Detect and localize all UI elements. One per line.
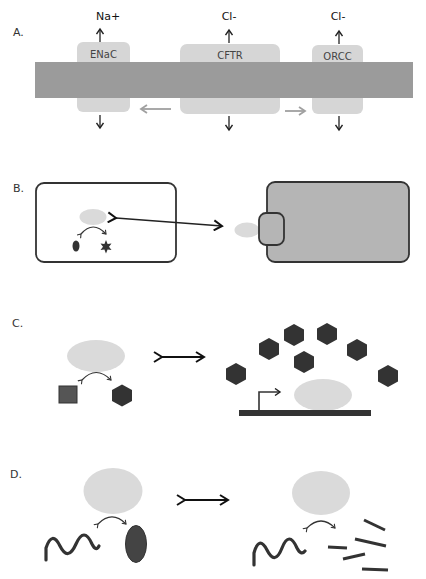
protein-oval-external <box>235 223 260 238</box>
conversion-arrow-icon <box>82 373 111 381</box>
panel-a: A. ENaC CFTR ORCC Na+ Cl- Cl- <box>13 10 413 130</box>
conversion-arrow-icon <box>307 521 335 528</box>
cl-ion-label-orcc: Cl- <box>331 10 346 23</box>
protein-oval <box>80 209 107 225</box>
hexagon-icon <box>284 324 304 346</box>
product-hexagon-icon <box>112 385 132 407</box>
cell-outline-right <box>267 182 409 262</box>
substrate-squiggle-icon <box>254 539 305 565</box>
panel-c-label: C. <box>12 317 23 330</box>
fragment-icon <box>343 554 365 559</box>
panel-b-label: B. <box>13 182 24 195</box>
cftr-label: CFTR <box>217 50 243 61</box>
hexagon-icon <box>259 338 279 360</box>
fragment-icon <box>328 547 347 548</box>
bound-protein-oval <box>294 379 352 411</box>
panel-d: D. <box>10 468 388 570</box>
substrate-square-icon <box>59 386 77 403</box>
cl-ion-label-cftr: Cl- <box>222 10 237 23</box>
hexagon-icon <box>347 339 367 361</box>
fragment-icon <box>364 520 385 530</box>
panel-c: C. <box>12 317 398 416</box>
hexagon-icon <box>317 323 337 345</box>
fragment-icon <box>362 569 388 570</box>
panel-b: B. <box>13 182 409 262</box>
hexagon-icon <box>226 363 246 385</box>
panel-a-label: A. <box>13 26 24 39</box>
hexagon-icon <box>294 351 314 373</box>
protein-oval <box>84 468 143 514</box>
na-ion-label: Na+ <box>96 10 120 23</box>
membrane-bar <box>35 62 413 98</box>
orcc-label: ORCC <box>323 51 351 62</box>
hexagon-icon <box>378 365 398 387</box>
receptor-bump <box>259 213 284 245</box>
product-oval-icon <box>126 526 147 563</box>
enac-label: ENaC <box>90 49 117 60</box>
promoter-arrow-icon <box>259 392 280 410</box>
diagram-canvas: A. ENaC CFTR ORCC Na+ Cl- Cl- B. <box>0 0 426 579</box>
protein-oval <box>292 471 350 515</box>
substrate-squiggle-icon <box>46 535 99 560</box>
protein-oval <box>67 340 125 372</box>
degraded-fragments <box>328 520 388 570</box>
fragment-icon <box>355 539 386 546</box>
substrate-oval-icon <box>73 241 80 252</box>
dna-strand <box>239 410 371 416</box>
conversion-arrow-icon <box>98 517 126 524</box>
panel-d-label: D. <box>10 468 22 481</box>
hexagon-cluster <box>226 323 398 387</box>
